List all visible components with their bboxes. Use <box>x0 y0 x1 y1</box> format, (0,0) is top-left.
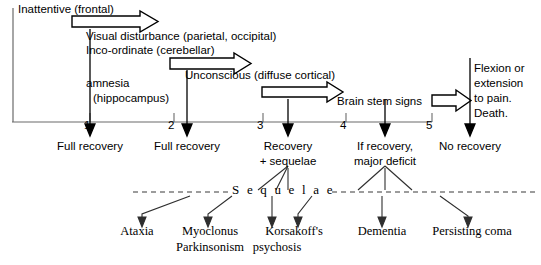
axis-tick-3: 3 <box>257 119 263 131</box>
outcome-label-1: Full recovery <box>57 140 123 152</box>
sequela-psychosis: psychosis <box>253 241 302 254</box>
label-visual-disturbance: Visual disturbance (parietal, occipital) <box>86 30 276 42</box>
coma-outcome-diagram: 1 2 3 4 5 Inattentive (frontal) Visual d… <box>0 0 541 265</box>
label-unconscious: Unconscious (diffuse cortical) <box>185 69 335 81</box>
block-arrow-unconscious <box>262 82 343 102</box>
label-hippocampus: (hippocampus) <box>93 92 169 104</box>
label-death: Death. <box>474 107 508 119</box>
block-arrow-terminal <box>432 90 471 111</box>
label-extension: extension <box>474 77 523 89</box>
outcome-label-4a: If recovery, <box>357 140 413 152</box>
label-brain-stem-signs: Brain stem signs <box>337 95 422 107</box>
outcome-label-4b: major deficit <box>354 155 416 167</box>
outcome-label-5: No recovery <box>439 140 501 152</box>
sequela-dementia: Dementia <box>358 225 407 238</box>
sequela-myoclonus: Myoclonus <box>182 225 238 238</box>
axis-tick-1: 1 <box>84 119 90 131</box>
sequela-persisting-coma: Persisting coma <box>432 225 512 238</box>
axis-tick-5: 5 <box>426 119 432 131</box>
outcome-label-2: Full recovery <box>154 140 220 152</box>
sequela-ataxia: Ataxia <box>120 225 153 238</box>
label-inco-ordinate: Inco-ordinate (cerebellar) <box>86 44 214 56</box>
label-inattentive: Inattentive (frontal) <box>18 3 114 15</box>
sequelae-divider-label: S e q u e l a e <box>232 183 335 197</box>
sequela-parkinsonism: Parkinsonism <box>176 241 244 254</box>
sequela-korsakoffs: Korsakoff's <box>265 225 323 238</box>
label-flexion-or: Flexion or <box>474 62 525 74</box>
axis-tick-4: 4 <box>340 119 346 131</box>
axis-tick-2: 2 <box>168 119 174 131</box>
label-to-pain: to pain. <box>474 92 512 104</box>
label-amnesia: amnesia <box>86 77 129 89</box>
sequelae-connectors-lower <box>138 196 472 227</box>
outcome-label-3b: + sequelae <box>260 155 317 167</box>
outcome-label-3a: Recovery <box>264 140 313 152</box>
